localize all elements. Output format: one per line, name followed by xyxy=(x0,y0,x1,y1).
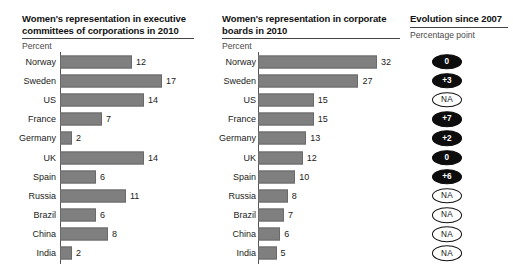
bar-value-label: 7 xyxy=(288,210,293,220)
category-label: UK xyxy=(2,153,56,163)
panel-unit-executive: Percent xyxy=(22,41,194,51)
bar-value-label: 14 xyxy=(148,95,158,105)
panel-header-corporate-boards: Women's representation in corporate boar… xyxy=(222,13,400,51)
category-label: Norway xyxy=(2,57,56,67)
evolution-badge: NA xyxy=(432,92,462,108)
bar xyxy=(258,209,284,222)
evolution-badge: NA xyxy=(432,188,462,204)
evolution-badge-column: 0+3NA+7+20+6NANANANA xyxy=(424,52,470,263)
bar xyxy=(60,151,144,164)
bar-value-label: 27 xyxy=(362,76,372,86)
bar-value-label: 2 xyxy=(76,133,81,143)
category-label: Brazil xyxy=(2,210,56,220)
bar-value-label: 2 xyxy=(76,248,81,258)
bar-value-label: 14 xyxy=(148,153,158,163)
evolution-row: 0 xyxy=(424,52,470,71)
title-divider-evolution xyxy=(410,27,508,28)
evolution-row: 0 xyxy=(424,148,470,167)
bar-value-label: 12 xyxy=(307,153,317,163)
bar-value-label: 10 xyxy=(299,172,309,182)
bar xyxy=(258,228,280,241)
panel-unit-boards: Percent xyxy=(222,41,400,51)
category-label: Sweden xyxy=(202,76,256,86)
bar-value-label: 6 xyxy=(284,229,289,239)
category-label: US xyxy=(2,95,56,105)
evolution-row: NA xyxy=(424,186,470,205)
evolution-row: +6 xyxy=(424,167,470,186)
category-label: US xyxy=(202,95,256,105)
bar xyxy=(60,228,108,241)
bar xyxy=(60,113,102,126)
category-label: Norway xyxy=(202,57,256,67)
bar xyxy=(258,113,314,126)
bar xyxy=(60,189,126,202)
panel-header-evolution: Evolution since 2007 Percentage point xyxy=(410,13,508,40)
panel-title-corporate-boards: Women's representation in corporate boar… xyxy=(222,13,400,38)
category-label: Brazil xyxy=(202,210,256,220)
evolution-badge: +3 xyxy=(432,73,462,89)
bar xyxy=(258,74,358,87)
bar xyxy=(60,247,72,260)
bar-value-label: 5 xyxy=(281,248,286,258)
evolution-badge: 0 xyxy=(432,54,462,70)
evolution-badge: 0 xyxy=(432,150,462,166)
category-label: Russia xyxy=(202,191,256,201)
evolution-badge: NA xyxy=(432,246,462,262)
evolution-row: NA xyxy=(424,244,470,263)
bar xyxy=(258,132,306,145)
evolution-row: +3 xyxy=(424,71,470,90)
bar-value-label: 6 xyxy=(100,172,105,182)
bar xyxy=(258,151,303,164)
category-label: China xyxy=(2,229,56,239)
evolution-badge: NA xyxy=(432,227,462,243)
category-label: Spain xyxy=(202,172,256,182)
category-label: India xyxy=(202,248,256,258)
evolution-row: NA xyxy=(424,225,470,244)
bar xyxy=(60,132,72,145)
evolution-badge: +6 xyxy=(432,169,462,185)
bar xyxy=(60,74,162,87)
category-label: Germany xyxy=(202,133,256,143)
bar xyxy=(258,55,377,68)
evolution-row: +2 xyxy=(424,129,470,148)
bar-value-label: 6 xyxy=(100,210,105,220)
title-divider-boards xyxy=(222,38,400,39)
category-label: India xyxy=(2,248,56,258)
category-label: Russia xyxy=(2,191,56,201)
bar-value-label: 7 xyxy=(106,114,111,124)
bar xyxy=(258,170,295,183)
panel-title-executive-committees: Women's representation in executive comm… xyxy=(22,13,194,38)
category-label: Germany xyxy=(2,133,56,143)
evolution-row: NA xyxy=(424,90,470,109)
evolution-badge: NA xyxy=(432,207,462,223)
evolution-row: NA xyxy=(424,206,470,225)
bar xyxy=(60,170,96,183)
panel-unit-evolution: Percentage point xyxy=(410,30,508,40)
bar-value-label: 12 xyxy=(136,57,146,67)
bar-value-label: 15 xyxy=(318,95,328,105)
bar-value-label: 8 xyxy=(292,191,297,201)
category-label: China xyxy=(202,229,256,239)
bar xyxy=(60,93,144,106)
category-label: France xyxy=(202,114,256,124)
bar-value-label: 32 xyxy=(381,57,391,67)
bar xyxy=(258,93,314,106)
category-label: Spain xyxy=(2,172,56,182)
figure-canvas: Women's representation in executive comm… xyxy=(0,0,513,279)
panel-header-executive-committees: Women's representation in executive comm… xyxy=(22,13,194,51)
evolution-badge: +2 xyxy=(432,131,462,147)
panel-title-evolution: Evolution since 2007 xyxy=(410,13,508,27)
evolution-badge: +7 xyxy=(432,111,462,127)
bar-value-label: 8 xyxy=(112,229,117,239)
bar-value-label: 17 xyxy=(166,76,176,86)
bar-value-label: 13 xyxy=(310,133,320,143)
bar-value-label: 15 xyxy=(318,114,328,124)
bar xyxy=(258,189,288,202)
title-divider-executive xyxy=(22,38,194,39)
bar-value-label: 11 xyxy=(130,191,139,201)
category-label: France xyxy=(2,114,56,124)
evolution-row: +7 xyxy=(424,110,470,129)
bar xyxy=(258,247,277,260)
bar xyxy=(60,55,132,68)
bar xyxy=(60,209,96,222)
